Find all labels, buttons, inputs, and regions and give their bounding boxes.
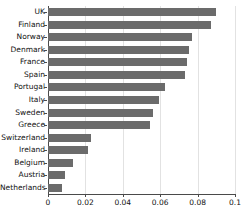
x-axis-label: 0.06 (152, 198, 169, 207)
bar-austria (48, 171, 65, 179)
bar-row (48, 119, 235, 132)
bar-norway (48, 33, 192, 41)
bar-row (48, 6, 235, 19)
bar-row (48, 181, 235, 194)
bar-row (48, 44, 235, 57)
x-axis-label: 0.08 (189, 198, 206, 207)
bar-row (48, 169, 235, 182)
x-axis-tick (198, 194, 199, 197)
x-axis-tick (123, 194, 124, 197)
x-axis-tick (160, 194, 161, 197)
bar-portugal (48, 83, 165, 91)
bar-spain (48, 71, 185, 79)
x-axis-tick (235, 194, 236, 197)
bar-sweden (48, 109, 153, 117)
bar-row (48, 69, 235, 82)
bar-france (48, 58, 187, 66)
plot-area (48, 6, 235, 194)
x-axis-ticks: 00.020.040.060.080.1 (0, 194, 242, 206)
bar-belgium (48, 159, 73, 167)
bar-row (48, 19, 235, 32)
x-axis-label: 0 (46, 198, 51, 207)
gridline (235, 6, 236, 194)
bar-row (48, 81, 235, 94)
bar-chart: UKFinlandNorwayDenmarkFranceSpainPortuga… (0, 0, 242, 222)
bar-row (48, 106, 235, 119)
bar-row (48, 31, 235, 44)
bar-italy (48, 96, 159, 104)
bar-ireland (48, 146, 88, 154)
bar-rows (48, 6, 235, 194)
x-axis-label: 0.02 (77, 198, 94, 207)
bar-row (48, 144, 235, 157)
bar-uk (48, 8, 216, 16)
x-axis-tick (85, 194, 86, 197)
bar-netherlands (48, 184, 62, 192)
bar-row (48, 131, 235, 144)
bar-row (48, 94, 235, 107)
x-axis-tick (48, 194, 49, 197)
bar-denmark (48, 46, 189, 54)
x-axis-label: 0.1 (229, 198, 241, 207)
bar-switzerland (48, 134, 91, 142)
bar-finland (48, 21, 211, 29)
bar-greece (48, 121, 150, 129)
bar-row (48, 156, 235, 169)
x-axis-label: 0.04 (114, 198, 131, 207)
bar-row (48, 56, 235, 69)
